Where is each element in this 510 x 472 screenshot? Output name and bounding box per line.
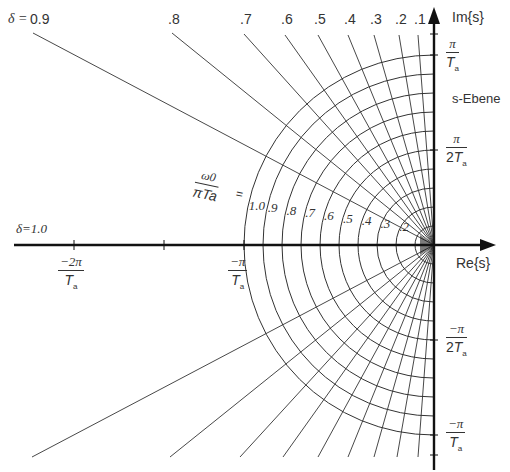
damping-prefix-label: δ = — [8, 12, 27, 26]
re-tick-label-1: −πTa — [228, 255, 247, 291]
tick-numerator: π — [451, 132, 462, 147]
tick-denominator: Ta — [231, 271, 244, 291]
damping-label-0.9: 0.9 — [30, 12, 49, 26]
damping-line-0.7-bottom — [240, 245, 434, 457]
damping-label-0.3: .3 — [370, 12, 382, 26]
omega-arc-label-0.6: .6 — [324, 209, 334, 222]
im-tick-label-0: πTa — [446, 37, 459, 73]
damping-label-0.2: .2 — [395, 12, 407, 26]
damping-label-0.8: .8 — [168, 12, 180, 26]
omega-arc-label-0.3: .3 — [381, 217, 391, 230]
damping-label-0.4: .4 — [344, 12, 356, 26]
im-tick-label-3: −πTa — [446, 417, 465, 453]
damping-line-0.8-bottom — [170, 245, 434, 457]
damping-line-0.6-bottom — [283, 245, 434, 457]
tick-numerator: −2π — [58, 255, 84, 270]
omega-arc-label-0.5: .5 — [343, 212, 353, 225]
damping-label-0.1: .1 — [414, 12, 426, 26]
damping-label-0.6: .6 — [281, 12, 293, 26]
plane-title: s-Ebene — [452, 92, 500, 105]
damping-line-0.1-bottom — [418, 245, 434, 457]
tick-denominator: Ta — [449, 433, 462, 453]
damping-label-0.7: .7 — [240, 12, 252, 26]
tick-denominator: Ta — [64, 271, 77, 291]
im-axis-arrow-icon — [428, 7, 440, 24]
omega-arc-label-0.2: .2 — [399, 220, 409, 233]
im-axis-label: Im{s} — [452, 10, 484, 24]
re-tick-label-0: −2πTa — [58, 255, 84, 291]
im-tick-label-1: π2Ta — [446, 132, 467, 168]
tick-numerator: −π — [446, 417, 465, 432]
omega-arc-label-0.9: .9 — [268, 201, 278, 214]
tick-denominator: Ta — [446, 53, 459, 73]
omega-arc-label-0.7: .7 — [305, 206, 315, 219]
tick-denominator: 2Ta — [446, 338, 467, 358]
im-tick-label-2: −π2Ta — [446, 322, 467, 358]
s-plane-diagram — [0, 0, 510, 472]
omega-arc-label-0.8: .8 — [286, 204, 296, 217]
damping-line-0.8-top — [172, 33, 434, 245]
omega-arc-label-0.4: .4 — [362, 214, 372, 227]
damping-line-0.1-top — [418, 35, 434, 245]
damping-label-0.5: .5 — [314, 12, 326, 26]
damping-one-label: δ=1.0 — [16, 222, 47, 235]
axes — [14, 7, 496, 470]
damping-line-0.2-bottom — [397, 245, 434, 457]
damping-line-0.3-bottom — [374, 245, 434, 457]
damping-line-0.5-bottom — [318, 245, 434, 457]
re-axis-arrow-icon — [480, 239, 496, 251]
re-axis-label: Re{s} — [456, 256, 490, 270]
tick-numerator: π — [447, 37, 458, 52]
tick-numerator: −π — [228, 255, 247, 270]
tick-denominator: 2Ta — [446, 148, 467, 168]
tick-numerator: −π — [447, 322, 466, 337]
omega-arc-label-1: 1.0 — [249, 199, 265, 212]
